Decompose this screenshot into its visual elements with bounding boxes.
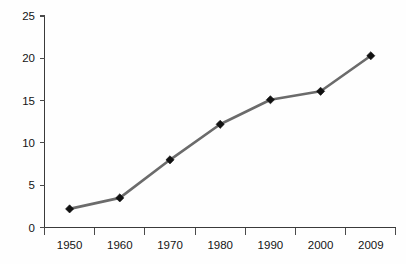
x-axis-label-2000: 2000	[308, 239, 334, 251]
chart-background	[0, 0, 406, 264]
y-axis-label-0: 0	[29, 222, 35, 234]
x-axis-label-1950: 1950	[57, 239, 83, 251]
x-axis-label-1970: 1970	[157, 239, 183, 251]
y-axis-label-25: 25	[22, 10, 35, 22]
line-chart: 0 5 10 15 20 25 1950 1960 1970 1980 1990…	[0, 0, 406, 264]
x-axis-label-1990: 1990	[258, 239, 284, 251]
y-axis-label-10: 10	[22, 137, 35, 149]
y-axis-label-5: 5	[29, 179, 35, 191]
x-axis-label-1980: 1980	[207, 239, 233, 251]
y-axis-label-15: 15	[22, 95, 35, 107]
x-axis-label-2009: 2009	[358, 239, 384, 251]
x-axis-label-1960: 1960	[107, 239, 133, 251]
chart-canvas: 0 5 10 15 20 25 1950 1960 1970 1980 1990…	[0, 0, 406, 264]
y-axis-label-20: 20	[22, 52, 35, 64]
